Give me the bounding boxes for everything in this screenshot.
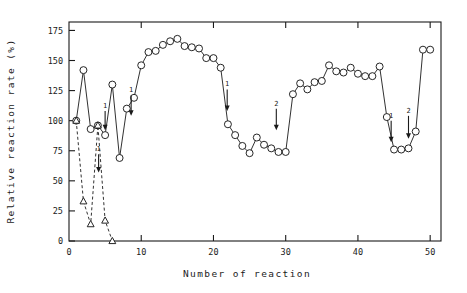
data-point-circle xyxy=(282,148,289,155)
data-point-circle xyxy=(311,79,318,86)
data-point-circle xyxy=(333,68,340,75)
data-point-circle xyxy=(246,150,253,157)
annotation-label: 1 xyxy=(225,80,229,88)
annotation-arrow-head xyxy=(274,125,279,131)
y-tick-label: 0 xyxy=(58,236,63,246)
annotation-layer: 1111212 xyxy=(96,80,411,172)
annotation-label: 2 xyxy=(406,107,410,115)
chart-figure: 0255075100125150175 01020304050 1111212 … xyxy=(0,0,467,293)
y-axis-tick-labels: 0255075100125150175 xyxy=(48,26,63,247)
data-point-circle xyxy=(152,47,159,54)
y-tick-label: 75 xyxy=(53,146,63,156)
data-point-circle xyxy=(275,148,282,155)
data-point-circle xyxy=(340,69,347,76)
annotation-regeneration-step-1: 1 xyxy=(225,80,230,111)
data-point-circle xyxy=(289,91,296,98)
reaction-rate-line-chart: 0255075100125150175 01020304050 1111212 … xyxy=(0,0,467,293)
annotation-label: 1 xyxy=(97,145,101,153)
data-point-circle xyxy=(210,55,217,62)
series-immobilized-enzyme-with-regeneration xyxy=(73,35,434,161)
annotation-arrow-head xyxy=(96,167,101,173)
data-point-circle xyxy=(362,73,369,80)
data-point-circle xyxy=(116,154,123,161)
data-point-circle xyxy=(167,38,174,45)
annotation-label: 1 xyxy=(103,102,107,110)
annotation-arrow-head xyxy=(406,133,411,139)
data-point-circle xyxy=(253,134,260,141)
annotation-arrow-head xyxy=(129,110,134,116)
annotation-label: 2 xyxy=(274,100,278,108)
y-axis-title-text: Relative reaction rate (%) xyxy=(5,38,16,223)
data-point-circle xyxy=(232,132,239,139)
series-immobilized-enzyme-without-regeneration xyxy=(73,117,116,244)
annotation-regeneration-step-2: 2 xyxy=(274,100,279,131)
x-axis-title: Number of reaction xyxy=(183,268,311,279)
data-point-circle xyxy=(304,86,311,93)
y-tick-label: 50 xyxy=(53,176,63,186)
y-axis-title: Relative reaction rate (%) xyxy=(5,38,16,223)
data-point-circle xyxy=(224,121,231,128)
data-point-circle xyxy=(318,77,325,84)
annotation-regeneration-step-1: 1 xyxy=(96,145,101,172)
annotation-arrow-head xyxy=(389,137,394,143)
y-tick-label: 125 xyxy=(48,86,63,96)
series-path xyxy=(76,39,430,158)
y-tick-label: 25 xyxy=(53,206,63,216)
data-point-circle xyxy=(174,35,181,42)
data-point-circle xyxy=(391,146,398,153)
data-point-triangle xyxy=(102,217,109,223)
x-axis-ticks xyxy=(141,22,430,241)
annotation-arrow-head xyxy=(103,125,108,131)
data-point-circle xyxy=(145,49,152,56)
data-point-circle xyxy=(369,73,376,80)
data-point-circle xyxy=(376,63,383,70)
data-point-circle xyxy=(87,126,94,133)
plot-frame xyxy=(69,22,441,241)
data-point-circle xyxy=(419,46,426,53)
annotation-label: 1 xyxy=(389,112,393,120)
x-tick-label: 40 xyxy=(353,247,363,257)
data-point-circle xyxy=(297,80,304,87)
x-tick-label: 30 xyxy=(281,247,291,257)
data-point-circle xyxy=(427,46,434,53)
y-axis-ticks xyxy=(69,30,75,241)
x-tick-label: 50 xyxy=(425,247,435,257)
data-point-circle xyxy=(268,145,275,152)
data-point-circle xyxy=(159,41,166,48)
annotation-label: 1 xyxy=(129,86,133,94)
data-point-circle xyxy=(326,62,333,69)
annotation-regeneration-step-1: 1 xyxy=(103,102,108,130)
data-point-circle xyxy=(347,64,354,71)
x-tick-label: 0 xyxy=(66,247,71,257)
data-point-circle xyxy=(239,142,246,149)
y-tick-label: 150 xyxy=(48,56,63,66)
data-point-triangle xyxy=(87,221,94,227)
data-point-circle xyxy=(138,62,145,69)
data-point-circle xyxy=(102,132,109,139)
data-point-circle xyxy=(261,141,268,148)
y-tick-label: 100 xyxy=(48,116,63,126)
data-point-circle xyxy=(80,67,87,74)
data-point-circle xyxy=(217,64,224,71)
data-point-circle xyxy=(203,55,210,62)
series-layer xyxy=(73,35,434,243)
x-tick-label: 10 xyxy=(136,247,146,257)
data-point-circle xyxy=(196,45,203,52)
data-point-circle xyxy=(109,81,116,88)
x-tick-label: 20 xyxy=(208,247,218,257)
data-point-circle xyxy=(412,128,419,135)
x-axis-title-text: Number of reaction xyxy=(183,268,311,279)
data-point-circle xyxy=(405,145,412,152)
x-axis-tick-labels: 01020304050 xyxy=(66,247,435,257)
data-point-circle xyxy=(181,43,188,50)
data-point-circle xyxy=(398,146,405,153)
data-point-triangle xyxy=(80,198,87,204)
y-tick-label: 175 xyxy=(48,26,63,36)
annotation-regeneration-step-2: 2 xyxy=(406,107,411,139)
data-point-circle xyxy=(354,70,361,77)
data-point-circle xyxy=(188,44,195,51)
